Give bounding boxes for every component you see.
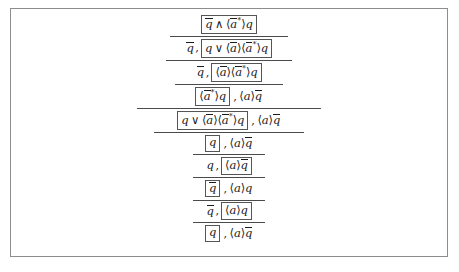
focus-starred-negated-var: a*	[230, 17, 241, 31]
focus-negated-var: a	[230, 41, 237, 55]
focused-formula-box: q	[205, 135, 220, 152]
focused-formula-box: q∧⟨a*⟩q	[201, 15, 257, 34]
sequent-separator-comma: ,	[215, 159, 221, 172]
focused-formula-box: q	[205, 180, 220, 198]
derivation-step: q,⟨a⟩⟨a*⟩q	[166, 59, 292, 83]
sequent-left-formula: q	[206, 204, 215, 218]
sequent-separator-comma: ,	[221, 182, 229, 195]
focus-var: q	[261, 41, 268, 55]
focus-var: q	[181, 113, 188, 127]
sequent-separator-comma: ,	[221, 227, 229, 240]
derivation-step: q,⟨a⟩q	[154, 131, 304, 153]
focused-formula-box: q∨⟨a⟩⟨a*⟩q	[201, 39, 272, 58]
sequent-left-formula: q	[206, 159, 215, 172]
focus-var: q	[237, 113, 244, 127]
right-var: a	[234, 226, 241, 240]
right-negated-var: q	[245, 226, 252, 240]
focus-var: q	[209, 135, 216, 149]
focus-negated-var: a	[220, 65, 227, 79]
sequent-row: q,⟨a⟩q	[205, 178, 254, 199]
disjunction-operator: ∨	[189, 113, 202, 127]
sequent-separator-comma: ,	[195, 41, 201, 54]
conjunction-operator: ∧	[213, 17, 226, 31]
overbar-glyph: a	[230, 17, 237, 31]
focused-formula-box: q∨⟨a⟩⟨a*⟩q	[177, 111, 248, 130]
right-var: q	[245, 181, 252, 195]
sequent-row: ⟨a*⟩q,⟨a⟩q	[195, 85, 263, 107]
right-negated-var: q	[273, 113, 280, 127]
sequent-right-formula: ⟨a⟩q	[229, 182, 254, 195]
overbar-glyph: a	[222, 114, 229, 128]
sequent-right-formula: ⟨a⟩q	[229, 136, 254, 150]
sequent-separator-comma: ,	[215, 204, 221, 217]
right-var: a	[262, 113, 269, 127]
focus-negated-var: q	[241, 158, 248, 172]
focus-var: q	[209, 225, 216, 239]
focused-formula-box: ⟨a*⟩q	[195, 87, 230, 106]
focus-starred-negated-var: a*	[204, 89, 215, 103]
sequent-row: q,q∨⟨a⟩⟨a*⟩q	[185, 37, 272, 59]
sequent-row: q,⟨a⟩q	[206, 155, 253, 176]
focus-starred-negated-var: a*	[235, 65, 246, 79]
right-var: a	[234, 136, 241, 150]
overbar-glyph: a	[246, 41, 253, 55]
figure-frame: q∧⟨a*⟩qq,q∨⟨a⟩⟨a*⟩qq,⟨a⟩⟨a*⟩q⟨a*⟩q,⟨a⟩qq…	[10, 8, 448, 257]
derivation-step: q,q∨⟨a⟩⟨a*⟩q	[170, 35, 288, 59]
derivation-step: ⟨a*⟩q,⟨a⟩q	[175, 83, 283, 107]
derivation-step: q,⟨a⟩q	[193, 199, 265, 221]
derivation-step: q,⟨a⟩q	[193, 176, 265, 199]
left-var: q	[207, 158, 214, 172]
sequent-row: q,⟨a⟩q	[205, 223, 254, 243]
sequent-row: q,⟨a⟩q	[205, 133, 254, 153]
focus-var: q	[219, 89, 226, 103]
sequent-right-formula: ⟨a⟩q	[238, 89, 263, 103]
overbar-glyph: a	[204, 89, 211, 103]
derivation-step: q∧⟨a*⟩q	[201, 13, 258, 35]
sequent-row: q,⟨a⟩q	[206, 201, 253, 221]
sequent-right-formula: ⟨a⟩q	[229, 226, 254, 240]
left-negated-var: q	[186, 41, 193, 55]
right-negated-var: q	[245, 136, 252, 150]
focus-negated-var: a	[206, 114, 213, 128]
proof-derivation: q∧⟨a*⟩qq,q∨⟨a⟩⟨a*⟩qq,⟨a⟩⟨a*⟩q⟨a*⟩q,⟨a⟩qq…	[11, 13, 447, 243]
sequent-left-formula: q	[196, 65, 205, 79]
focused-formula-box: q	[205, 225, 220, 242]
focus-starred-negated-var: a*	[222, 113, 233, 127]
sequent-separator-comma: ,	[205, 66, 211, 79]
focus-starred-negated-var: a*	[246, 41, 257, 55]
focus-var: q	[250, 65, 257, 79]
focus-negated-var: q	[209, 181, 216, 195]
derivation-step: q∨⟨a⟩⟨a*⟩q,⟨a⟩q	[137, 107, 321, 131]
right-var: a	[234, 181, 241, 195]
sequent-separator-comma: ,	[231, 90, 239, 103]
focus-negated-var: q	[205, 17, 212, 31]
sequent-left-formula: q	[185, 41, 194, 55]
focused-formula-box: ⟨a⟩q	[221, 157, 252, 175]
derivation-step: q,⟨a⟩q	[193, 221, 265, 243]
sequent-separator-comma: ,	[221, 137, 229, 150]
right-negated-var: q	[255, 89, 262, 103]
focus-var: q	[241, 203, 248, 217]
sequent-row: q∨⟨a⟩⟨a*⟩q,⟨a⟩q	[177, 109, 282, 131]
disjunction-operator: ∨	[212, 41, 225, 55]
left-negated-var: q	[207, 204, 214, 218]
focus-var: q	[245, 17, 252, 31]
overbar-glyph: a	[235, 65, 242, 79]
focused-formula-box: ⟨a⟩⟨a*⟩q	[211, 63, 261, 82]
sequent-right-formula: ⟨a⟩q	[256, 113, 281, 127]
left-negated-var: q	[197, 65, 204, 79]
derivation-step: q,⟨a⟩q	[193, 153, 265, 176]
sequent-row: q∧⟨a*⟩q	[201, 13, 258, 35]
sequent-row: q,⟨a⟩⟨a*⟩q	[196, 61, 262, 83]
sequent-separator-comma: ,	[249, 114, 257, 127]
focused-formula-box: ⟨a⟩q	[221, 202, 252, 219]
